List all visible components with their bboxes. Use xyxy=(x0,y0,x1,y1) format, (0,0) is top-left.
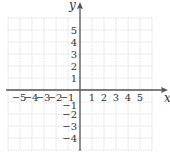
coordinate-plane: −5−4−3−2−112345 −4−3−2−112345 x y xyxy=(0,0,170,160)
y-tick-label: 3 xyxy=(71,49,77,60)
x-tick-label: 2 xyxy=(101,92,107,103)
y-tick-label: 2 xyxy=(71,61,77,72)
y-tick-label: 5 xyxy=(71,25,77,36)
x-tick-labels: −5−4−3−2−112345 xyxy=(12,92,144,103)
y-tick-label: −1 xyxy=(62,100,77,111)
y-axis-label: y xyxy=(68,0,76,12)
x-tick-label: 1 xyxy=(89,92,95,103)
x-tick-label: 5 xyxy=(137,92,143,103)
y-tick-labels: −4−3−2−112345 xyxy=(62,25,77,144)
axes xyxy=(6,2,168,151)
x-axis-label: x xyxy=(164,91,170,105)
x-tick-label: 3 xyxy=(113,92,119,103)
y-tick-label: 1 xyxy=(71,73,77,84)
y-tick-label: −3 xyxy=(62,121,77,132)
x-tick-label: 4 xyxy=(125,92,131,103)
y-tick-label: 4 xyxy=(71,37,77,48)
y-axis-arrow-icon xyxy=(77,2,83,9)
y-tick-label: −4 xyxy=(62,133,77,144)
